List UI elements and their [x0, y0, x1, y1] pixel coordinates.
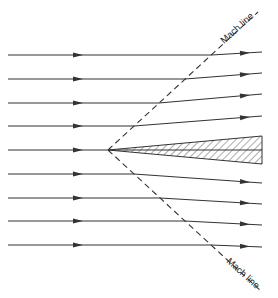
upper-mach-line-label: Mach line — [218, 10, 256, 45]
flow-arrow-icon — [240, 221, 250, 227]
flow-arrow-icon — [73, 219, 83, 224]
flow-arrow-icon — [240, 179, 250, 185]
flow-arrow-icon — [240, 200, 250, 206]
flow-arrow-icon — [240, 244, 250, 249]
flow-arrow-icon — [240, 93, 250, 99]
flow-arrow-icon — [73, 172, 83, 177]
flow-arrow-icon — [240, 50, 250, 56]
flow-arrow-icon — [73, 53, 83, 58]
streamline — [8, 71, 262, 81]
streamline — [8, 219, 262, 227]
streamline — [8, 172, 262, 185]
flow-arrow-icon — [73, 196, 83, 201]
wedge-flow-diagram: Mach line Mach line — [0, 0, 278, 298]
wedge-body — [108, 136, 262, 164]
streamline — [8, 50, 262, 57]
flow-arrow-icon — [240, 71, 250, 77]
streamline — [8, 114, 262, 128]
lower-mach-line-label: Mach line — [225, 255, 263, 290]
flow-arrow-icon — [73, 243, 83, 248]
streamline — [8, 196, 262, 206]
streamline — [8, 93, 262, 106]
flow-arrow-icon — [73, 77, 83, 82]
streamline — [8, 243, 262, 250]
flow-arrow-icon — [240, 114, 250, 120]
flow-arrow-icon — [73, 148, 83, 153]
flow-arrow-icon — [73, 101, 83, 106]
flow-arrow-icon — [73, 124, 83, 129]
